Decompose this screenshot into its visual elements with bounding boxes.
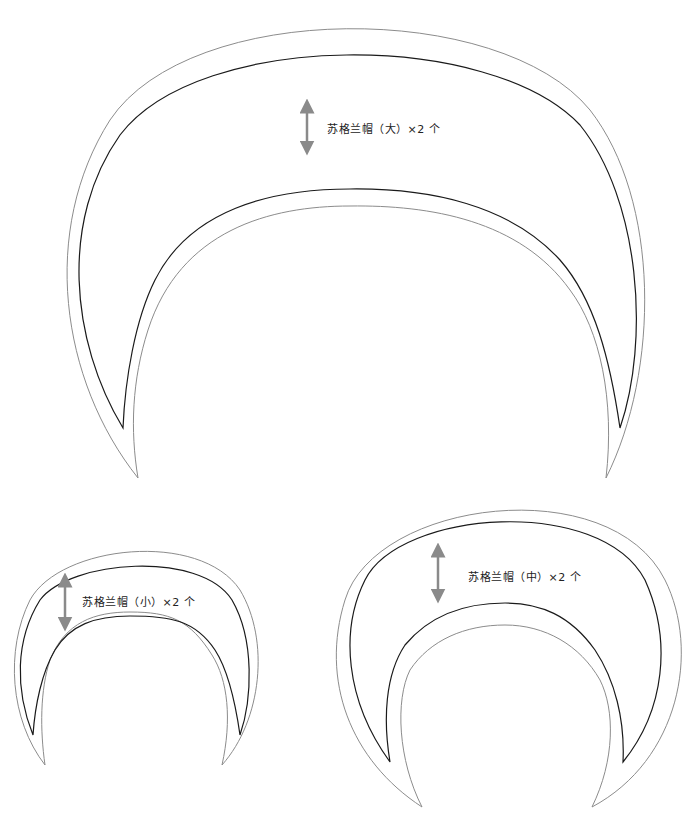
piece-small — [14, 551, 258, 765]
piece-large — [67, 29, 645, 478]
seam-allowance-outline — [67, 29, 645, 478]
cut-line — [20, 566, 249, 735]
label-large-piece: 苏格兰帽（大）×2 个 — [327, 120, 440, 136]
cut-line — [79, 55, 636, 428]
piece-medium — [336, 510, 681, 807]
label-medium-piece: 苏格兰帽（中）×2 个 — [468, 568, 581, 584]
label-small-piece: 苏格兰帽（小）×2 个 — [82, 593, 195, 609]
cut-line — [350, 522, 661, 762]
